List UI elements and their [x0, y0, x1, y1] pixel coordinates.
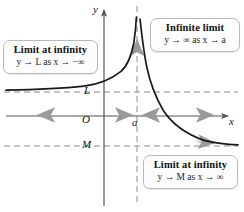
limit-diagram-figure: y x O a L M Limit at infinity y → L as x…	[0, 0, 244, 212]
callout-bottom-right-subtitle: y → M as x → ∞	[149, 172, 232, 183]
callout-left-subtitle: y → L as x → −∞	[9, 57, 92, 68]
x-axis-label: x	[229, 115, 234, 127]
callout-limit-at-positive-infinity: Limit at infinity y → M as x → ∞	[143, 155, 238, 189]
callout-top-right-subtitle: y → ∞ as x → a	[156, 35, 234, 46]
callout-bottom-right-title: Limit at infinity	[149, 159, 232, 171]
callout-infinite-limit: Infinite limit y → ∞ as x → a	[150, 18, 240, 52]
asymptote-upper-label: L	[84, 84, 90, 96]
y-axis-label: y	[93, 3, 98, 15]
callout-left-title: Limit at infinity	[9, 44, 92, 56]
callout-top-right-title: Infinite limit	[156, 22, 234, 34]
callout-limit-at-negative-infinity: Limit at infinity y → L as x → −∞	[3, 40, 98, 74]
vertical-asymptote-label: a	[132, 116, 138, 128]
origin-label: O	[82, 113, 90, 125]
asymptote-lower-label: M	[82, 138, 91, 150]
